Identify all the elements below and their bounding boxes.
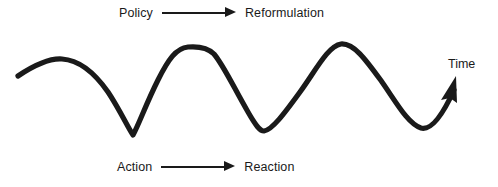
figure-canvas: Policy Reformulation Time Action Reactio…: [0, 0, 498, 187]
arrow-head: [224, 161, 235, 171]
arrow-shaft: [161, 166, 225, 168]
right-arrow-icon: [161, 161, 235, 173]
reaction-label: Reaction: [244, 159, 294, 175]
action-reaction-relation: Action Reaction: [117, 159, 294, 175]
wave-line: [18, 44, 454, 135]
action-label: Action: [117, 159, 152, 175]
time-axis-label: Time: [448, 57, 475, 71]
